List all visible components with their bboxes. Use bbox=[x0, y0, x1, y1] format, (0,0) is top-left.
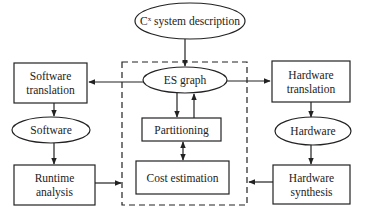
svg-text:synthesis: synthesis bbox=[290, 186, 333, 199]
svg-text:Runtime: Runtime bbox=[35, 172, 75, 184]
svg-text:Hardware: Hardware bbox=[290, 125, 335, 137]
svg-text:Partitioning: Partitioning bbox=[154, 124, 209, 137]
partitioning-node: Partitioning bbox=[142, 118, 221, 141]
hardware-node: Hardware bbox=[275, 117, 351, 145]
hw-sw-codesign-diagram: Cx system description ES graph Partition… bbox=[0, 0, 367, 218]
svg-text:Cost estimation: Cost estimation bbox=[147, 172, 219, 184]
software-translation-node: Software translation bbox=[14, 63, 87, 103]
svg-text:translation: translation bbox=[287, 83, 336, 95]
system-description-node: Cx system description bbox=[135, 3, 245, 39]
svg-text:Software: Software bbox=[30, 124, 72, 136]
svg-text:translation: translation bbox=[26, 84, 75, 96]
svg-text:analysis: analysis bbox=[36, 186, 74, 199]
runtime-analysis-node: Runtime analysis bbox=[14, 165, 95, 205]
hardware-translation-node: Hardware translation bbox=[272, 61, 350, 102]
svg-text:Hardware: Hardware bbox=[289, 172, 334, 184]
svg-text:Cx system description: Cx system description bbox=[140, 15, 240, 28]
cost-estimation-node: Cost estimation bbox=[136, 161, 229, 194]
software-node: Software bbox=[12, 117, 90, 143]
svg-text:Hardware: Hardware bbox=[288, 69, 333, 81]
svg-text:ES graph: ES graph bbox=[164, 74, 207, 87]
svg-text:Software: Software bbox=[30, 70, 72, 82]
es-graph-node: ES graph bbox=[143, 67, 227, 93]
hardware-synthesis-node: Hardware synthesis bbox=[273, 165, 350, 204]
